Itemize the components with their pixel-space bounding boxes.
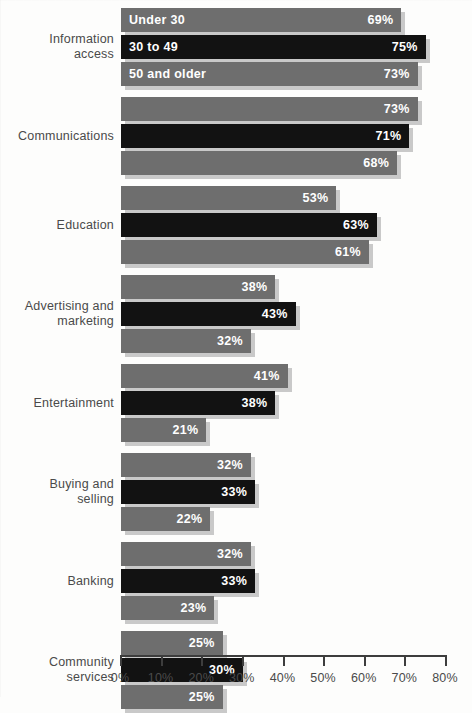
bar-under-30: Under 3069% [121,8,401,32]
bar-row: 61% [121,240,472,264]
axis-tick [283,655,285,666]
bar-50-and-older: 21% [121,418,206,442]
bar-row: 32% [121,453,472,477]
bar-value-label: 38% [241,396,267,410]
bar-value-label: 63% [343,218,369,232]
bar-value-label: 25% [189,636,215,650]
bar-under-30: 32% [121,542,251,566]
axis-tick-label: 30% [229,671,255,685]
bar-value-label: 61% [335,245,361,259]
bar-value-label: 69% [367,13,393,27]
bar-row: 38% [121,391,472,415]
legend-series-label: 50 and older [129,67,206,81]
bar-value-label: 73% [384,102,410,116]
bar-value-label: 23% [181,601,207,615]
bar-row: 73% [121,97,472,121]
bar-group: Information accessUnder 3069%30 to 4975%… [0,8,472,86]
bar-50-and-older: 23% [121,596,214,620]
bar-value-label: 22% [176,512,202,526]
axis-tick-label: 0% [111,671,129,685]
bar-value-label: 43% [262,307,288,321]
legend-series-label: Under 30 [129,13,185,27]
bar-row: 23% [121,596,472,620]
bar-30-to-49: 43% [121,302,296,326]
bar-value-label: 73% [384,67,410,81]
bar-under-30: 25% [121,631,223,655]
axis-tick-label: 40% [270,671,296,685]
bar-value-label: 32% [217,458,243,472]
axis-tick-label: 20% [188,671,214,685]
category-label: Communications [0,129,114,144]
x-axis: 0%10%20%30%40%50%60%70%80% [0,655,472,697]
axis-tick-label: 10% [148,671,174,685]
category-label: Advertising and marketing [0,299,114,329]
bar-group: Advertising and marketing38%43%32% [0,275,472,353]
bar-50-and-older: 32% [121,329,251,353]
bar-row: 71% [121,124,472,148]
bar-50-and-older: 68% [121,151,397,175]
bar-group: Banking32%33%23% [0,542,472,620]
bar-row: 63% [121,213,472,237]
legend-series-label: 30 to 49 [129,40,178,54]
bar-row: 41% [121,364,472,388]
bar-under-30: 41% [121,364,288,388]
bar-row: 33% [121,569,472,593]
bar-row: 30 to 4975% [121,35,472,59]
bar-row: 32% [121,542,472,566]
bar-row: 21% [121,418,472,442]
axis-tick [201,655,203,666]
axis-tick [323,655,325,666]
category-label: Entertainment [0,396,114,411]
axis-tick [120,655,122,666]
bar-group: Buying and selling32%33%22% [0,453,472,531]
bar-group: Communications73%71%68% [0,97,472,175]
bar-50-and-older: 61% [121,240,369,264]
bar-50-and-older: 50 and older73% [121,62,418,86]
bar-50-and-older: 22% [121,507,210,531]
bar-row: 68% [121,151,472,175]
bar-row: 25% [121,631,472,655]
axis-tick [445,655,447,666]
bar-group: Entertainment41%38%21% [0,364,472,442]
bar-value-label: 33% [221,485,247,499]
axis-tick-label: 50% [310,671,336,685]
axis-tick [364,655,366,666]
bar-row: 50 and older73% [121,62,472,86]
bar-under-30: 32% [121,453,251,477]
bar-value-label: 71% [376,129,402,143]
bar-30-to-49: 63% [121,213,377,237]
bar-row: 22% [121,507,472,531]
bar-30-to-49: 30 to 4975% [121,35,426,59]
bar-value-label: 32% [217,547,243,561]
bar-group: Education53%63%61% [0,186,472,264]
category-label: Information access [0,32,114,62]
bar-row: 33% [121,480,472,504]
bar-30-to-49: 33% [121,569,255,593]
bar-value-label: 21% [172,423,198,437]
category-label: Buying and selling [0,477,114,507]
bar-row: 43% [121,302,472,326]
bar-30-to-49: 38% [121,391,275,415]
category-label: Education [0,218,114,233]
bar-row: 53% [121,186,472,210]
axis-tick [242,655,244,666]
bar-under-30: 38% [121,275,275,299]
axis-tick [404,655,406,666]
axis-tick [161,655,163,666]
bar-under-30: 73% [121,97,418,121]
bar-under-30: 53% [121,186,336,210]
bar-row: 38% [121,275,472,299]
bar-30-to-49: 71% [121,124,409,148]
bar-value-label: 75% [392,40,418,54]
bar-value-label: 68% [363,156,389,170]
axis-tick-label: 80% [432,671,458,685]
category-label: Banking [0,574,114,589]
bar-value-label: 33% [221,574,247,588]
bar-row: 32% [121,329,472,353]
bar-30-to-49: 33% [121,480,255,504]
bar-value-label: 53% [302,191,328,205]
axis-tick-label: 70% [392,671,418,685]
axis-tick-label: 60% [351,671,377,685]
bar-value-label: 32% [217,334,243,348]
